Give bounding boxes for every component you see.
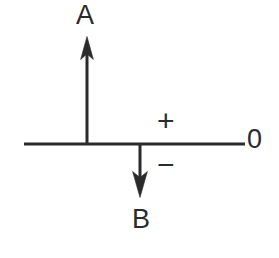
vector-a-label: A <box>76 2 94 29</box>
axis-zero-label: 0 <box>247 126 262 153</box>
horizontal-axis-line <box>24 143 245 146</box>
plus-sign-icon: + <box>157 106 175 136</box>
vector-a-stem <box>86 50 89 144</box>
vector-b-label: B <box>132 206 150 233</box>
minus-sign-icon: − <box>157 150 175 180</box>
diagram-canvas: A B 0 + − <box>0 0 279 258</box>
